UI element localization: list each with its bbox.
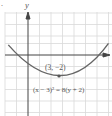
equation-label: (x − 3)² = 8(y + 2) [33,86,85,94]
x-axis-arrow-icon [103,53,110,57]
vertex-label: (3, −2) [45,63,66,72]
parabola-graph: . y (3, −2) (x − 3)² = 8(y + 2) [0,0,112,116]
vertex-point [57,74,60,77]
y-axis-label: y [24,0,29,10]
corner-mark: . [1,0,3,8]
